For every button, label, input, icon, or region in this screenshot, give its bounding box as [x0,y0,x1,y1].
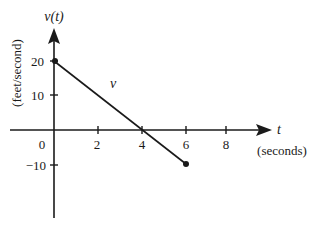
x-tick-label-6: 6 [183,137,190,152]
y-tick-label-20: 20 [31,54,44,69]
x-axis-variable-label: t [277,122,282,137]
y-axis-variable-label: v(t) [44,9,64,25]
v-start-point [52,58,58,64]
x-tick-label-4: 4 [139,137,146,152]
velocity-chart: v(t) t (feet/second) (seconds) v 0 2 4 6… [0,0,312,233]
v-end-point [183,161,189,167]
y-tick-label-10: 10 [31,88,44,103]
curve-label-v: v [110,76,117,91]
y-axis-unit-label: (feet/second) [9,39,24,107]
x-tick-label-8: 8 [223,137,230,152]
x-axis-unit-label: (seconds) [257,143,307,158]
x-tick-label-0: 0 [39,137,46,152]
x-tick-label-2: 2 [94,137,101,152]
v-line [54,61,186,164]
y-tick-label-neg10: −10 [26,158,46,173]
